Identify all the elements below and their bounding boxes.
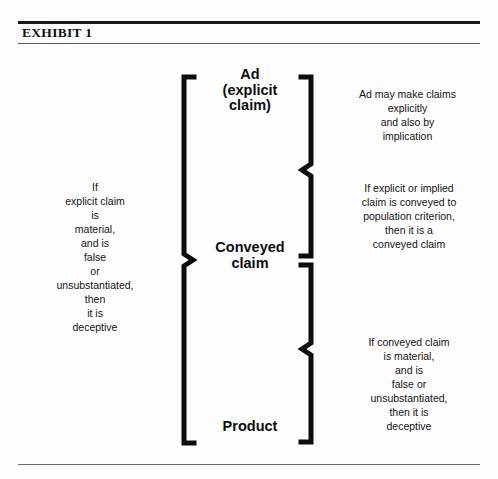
- node-label-ad: Ad (explicit claim): [185, 67, 315, 114]
- node-label-ad-line-1: Ad: [185, 67, 315, 83]
- node-label-product: Product: [185, 419, 315, 435]
- right-middle-annotation-line-1: If explicit or implied: [330, 182, 488, 196]
- right-bottom-annotation-line-4: false or: [330, 378, 488, 392]
- right-bottom-annotation-text: If conveyed claim is material, and is fa…: [330, 336, 488, 434]
- left-annotation-line-8: unsubstantiated,: [10, 279, 180, 293]
- node-label-conveyed-line-2: claim: [185, 256, 315, 272]
- right-top-annotation-line-1: Ad may make claims: [330, 88, 485, 102]
- right-top-annotation-line-4: implication: [330, 130, 485, 144]
- node-label-product-line-1: Product: [185, 419, 315, 435]
- right-top-annotation-text: Ad may make claims explicitly and also b…: [330, 88, 485, 144]
- right-bottom-annotation-line-7: deceptive: [330, 420, 488, 434]
- right-middle-annotation-text: If explicit or implied claim is conveyed…: [330, 182, 488, 252]
- right-top-annotation-line-2: explicitly: [330, 102, 485, 116]
- footer-rule: [18, 464, 480, 465]
- left-annotation-line-5: and is: [10, 237, 180, 251]
- left-annotation-line-7: or: [10, 265, 180, 279]
- right-bottom-annotation-line-1: If conveyed claim: [330, 336, 488, 350]
- left-annotation-line-6: false: [10, 251, 180, 265]
- left-annotation-line-2: explicit claim: [10, 195, 180, 209]
- left-annotation-line-3: is: [10, 209, 180, 223]
- header-bottom-rule: [18, 43, 480, 44]
- right-middle-annotation-line-4: then it is a: [330, 224, 488, 238]
- right-top-annotation-line-3: and also by: [330, 116, 485, 130]
- node-label-conveyed-claim: Conveyed claim: [185, 240, 315, 271]
- right-bottom-annotation-line-3: and is: [330, 364, 488, 378]
- left-annotation-line-10: it is: [10, 307, 180, 321]
- left-annotation-line-4: material,: [10, 223, 180, 237]
- right-bottom-annotation-line-6: then it is: [330, 406, 488, 420]
- header-top-rule: [18, 21, 480, 24]
- exhibit-page: EXHIBIT 1 Ad (explicit claim) Conveyed c…: [0, 0, 498, 479]
- right-bottom-annotation-line-5: unsubstantiated,: [330, 392, 488, 406]
- node-label-ad-line-2: (explicit: [185, 83, 315, 99]
- node-label-ad-line-3: claim): [185, 98, 315, 114]
- left-annotation-line-11: deceptive: [10, 321, 180, 335]
- left-annotation-line-1: If: [10, 181, 180, 195]
- node-label-conveyed-line-1: Conveyed: [185, 240, 315, 256]
- right-middle-annotation-line-3: population criterion,: [330, 210, 488, 224]
- left-annotation-line-9: then: [10, 293, 180, 307]
- left-annotation-text: If explicit claim is material, and is fa…: [10, 181, 180, 334]
- right-bottom-annotation-line-2: is material,: [330, 350, 488, 364]
- page-title: EXHIBIT 1: [22, 25, 92, 41]
- right-middle-annotation-line-2: claim is conveyed to: [330, 196, 488, 210]
- right-middle-annotation-line-5: conveyed claim: [330, 238, 488, 252]
